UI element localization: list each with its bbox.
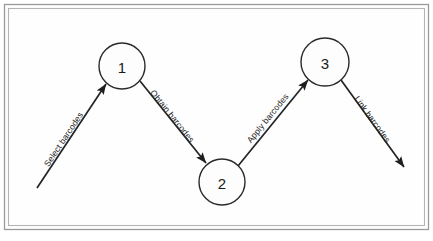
node-label-1: 1 (118, 59, 126, 76)
figure-container: Select barcodes Obtain barcodes Apply ba… (0, 0, 433, 241)
node-label-3: 3 (321, 55, 329, 72)
node-label-2: 2 (218, 175, 226, 192)
workflow-diagram: Select barcodes Obtain barcodes Apply ba… (0, 0, 433, 241)
